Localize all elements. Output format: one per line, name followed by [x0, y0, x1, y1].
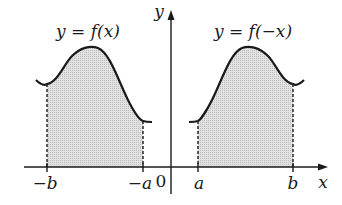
x-axis-label: x: [318, 172, 328, 192]
left-graph-label: y = f(x): [55, 21, 120, 41]
x-axis-arrow-icon: [318, 164, 328, 171]
reflection-diagram: y = f(x) y = f(−x) y x 0 −b −a a b: [0, 0, 342, 205]
y-axis-arrow-icon: [168, 10, 175, 20]
tick-label-b: b: [288, 173, 299, 193]
right-graph-label: y = f(−x): [213, 21, 292, 41]
tick-label-neg-b: −b: [32, 173, 57, 193]
y-axis-label: y: [153, 1, 164, 21]
left-shaded-area: [47, 47, 143, 167]
tick-label-a: a: [194, 173, 204, 193]
tick-label-neg-a: −a: [128, 173, 152, 193]
origin-label: 0: [156, 171, 167, 191]
right-shaded-area: [198, 47, 293, 167]
